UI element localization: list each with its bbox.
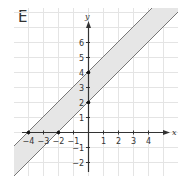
y-tick-label: 1	[79, 114, 84, 123]
marked-point	[87, 71, 91, 75]
y-axis-arrow-icon	[86, 21, 91, 28]
x-tick-label: 1	[101, 137, 106, 146]
y-tick-label: −2	[72, 159, 84, 168]
coordinate-graph: xy−4−3−2−11234−2−1123456	[0, 0, 188, 192]
x-tick-label: 3	[131, 137, 136, 146]
marked-point	[57, 131, 61, 135]
x-tick-label: −3	[38, 137, 50, 146]
y-tick-label: 6	[79, 39, 84, 48]
x-tick-label: −2	[53, 137, 65, 146]
marked-point	[87, 101, 91, 105]
x-tick-label: −4	[23, 137, 35, 146]
y-tick-label: 4	[79, 69, 84, 78]
y-tick-label: 3	[79, 84, 84, 93]
x-tick-label: 4	[146, 137, 151, 146]
y-tick-label: 2	[79, 99, 84, 108]
lower-boundary-line	[10, 12, 178, 180]
x-axis-arrow-icon	[163, 130, 170, 135]
y-tick-label: 5	[79, 54, 84, 63]
y-tick-label: −1	[72, 144, 84, 153]
marked-point	[27, 131, 31, 135]
x-axis-label: x	[172, 128, 177, 137]
y-axis-label: y	[84, 12, 90, 21]
x-tick-label: 2	[116, 137, 121, 146]
